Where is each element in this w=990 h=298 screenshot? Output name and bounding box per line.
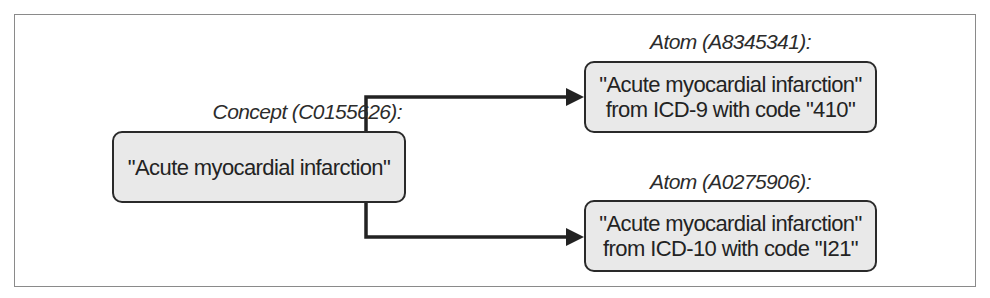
atom-1-label: Atom (A8345341):	[584, 30, 877, 54]
atom-2-node: "Acute myocardial infarction" from ICD-1…	[584, 200, 877, 272]
atom-1-text-line-2: from ICD-9 with code "410"	[599, 97, 861, 122]
concept-label: Concept (C0155626):	[112, 100, 402, 124]
concept-node: "Acute myocardial infarction"	[112, 131, 406, 203]
atom-1-text-line-1: "Acute myocardial infarction"	[599, 72, 861, 97]
atom-1-node: "Acute myocardial infarction" from ICD-9…	[584, 61, 877, 133]
concept-text: "Acute myocardial infarction"	[128, 155, 390, 180]
atom-2-text-line-2: from ICD-10 with code "I21"	[599, 236, 861, 261]
atom-2-text-line-1: "Acute myocardial infarction"	[599, 211, 861, 236]
atom-2-label: Atom (A0275906):	[584, 170, 877, 194]
